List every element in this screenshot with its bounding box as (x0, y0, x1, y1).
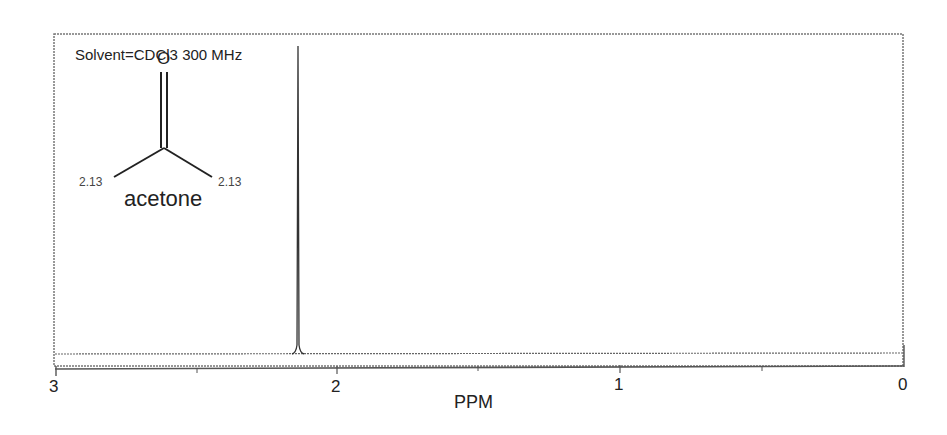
shift-right-label: 2.13 (218, 175, 241, 189)
compound-name: acetone (124, 186, 202, 212)
x-axis (55, 366, 904, 369)
tick-label-2: 2 (331, 377, 340, 397)
nmr-chart (0, 0, 947, 435)
x-axis-label: PPM (454, 392, 493, 413)
shift-left-label: 2.13 (79, 175, 102, 189)
tick-label-0: 0 (898, 375, 907, 395)
tick-label-3: 3 (49, 377, 58, 397)
spectrum-baseline (55, 353, 902, 354)
peak-2-13 (292, 46, 304, 354)
acetone-structure (114, 72, 212, 177)
tick-label-1: 1 (614, 375, 623, 395)
oxygen-atom-label: O (157, 49, 170, 69)
